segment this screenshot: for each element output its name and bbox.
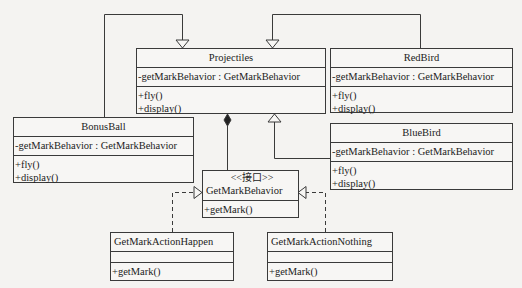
- attribute: -getMarkBehavior : GetMarkBehavior: [137, 68, 325, 87]
- nothing-realization-arrowhead: [298, 187, 306, 199]
- methods: +fly() +display(): [331, 162, 512, 192]
- methods: +getMark(): [203, 201, 298, 218]
- methods: +getMark(): [268, 263, 392, 280]
- attribute: -getMarkBehavior : GetMarkBehavior: [331, 143, 512, 162]
- attribute: -getMarkBehavior : GetMarkBehavior: [14, 137, 193, 156]
- class-getmarkactionnothing[interactable]: GetMarkActionNothing +getMark(): [267, 232, 393, 281]
- stereotype-label: <<接口>>: [206, 172, 298, 184]
- class-redbird[interactable]: RedBird -getMarkBehavior : GetMarkBehavi…: [330, 48, 513, 113]
- interface-getmarkbehavior[interactable]: <<接口>> GetMarkBehavior +getMark(): [202, 170, 299, 218]
- class-name: GetMarkActionNothing: [268, 233, 392, 252]
- bluebird-generalization-line: [275, 122, 331, 159]
- interface-name: GetMarkBehavior: [206, 185, 282, 196]
- happen-realization-line: [173, 193, 195, 233]
- class-name: BlueBird: [331, 124, 512, 143]
- method: +display(): [332, 177, 510, 190]
- class-projectiles[interactable]: Projectiles -getMarkBehavior : GetMarkBe…: [136, 48, 326, 114]
- redbird-generalization-arrowhead: [266, 40, 279, 48]
- method: +getMark(): [204, 203, 296, 216]
- method: +getMark(): [112, 265, 231, 278]
- class-bonusball[interactable]: BonusBall -getMarkBehavior : GetMarkBeha…: [13, 117, 194, 183]
- class-bluebird[interactable]: BlueBird -getMarkBehavior : GetMarkBehav…: [330, 123, 513, 190]
- method: +fly(): [15, 158, 191, 171]
- class-getmarkactionhappen[interactable]: GetMarkActionHappen +getMark(): [110, 232, 234, 281]
- method: +fly(): [332, 89, 510, 102]
- method: +display(): [332, 102, 510, 115]
- method: +fly(): [332, 164, 510, 177]
- methods: +fly() +display(): [137, 87, 325, 117]
- class-name: Projectiles: [137, 49, 325, 68]
- class-name: RedBird: [331, 49, 512, 68]
- method: +fly(): [138, 89, 323, 102]
- uml-diagram-canvas: Projectiles -getMarkBehavior : GetMarkBe…: [0, 0, 522, 288]
- method: +display(): [138, 102, 323, 115]
- attribute: -getMarkBehavior : GetMarkBehavior: [331, 68, 512, 87]
- methods: +fly() +display(): [14, 156, 193, 186]
- method: +display(): [15, 171, 191, 184]
- methods: +fly() +display(): [331, 87, 512, 117]
- redbird-generalization-line: [273, 15, 421, 49]
- attributes-empty: [268, 252, 392, 263]
- method: +getMark(): [269, 265, 390, 278]
- happen-realization-arrowhead: [194, 187, 202, 199]
- class-name: BonusBall: [14, 118, 193, 137]
- interface-header: <<接口>> GetMarkBehavior: [203, 171, 298, 201]
- methods: +getMark(): [111, 263, 233, 280]
- attributes-empty: [111, 252, 233, 263]
- bonusball-generalization-arrowhead: [176, 40, 189, 48]
- class-name: GetMarkActionHappen: [111, 233, 233, 252]
- nothing-realization-line: [306, 193, 326, 233]
